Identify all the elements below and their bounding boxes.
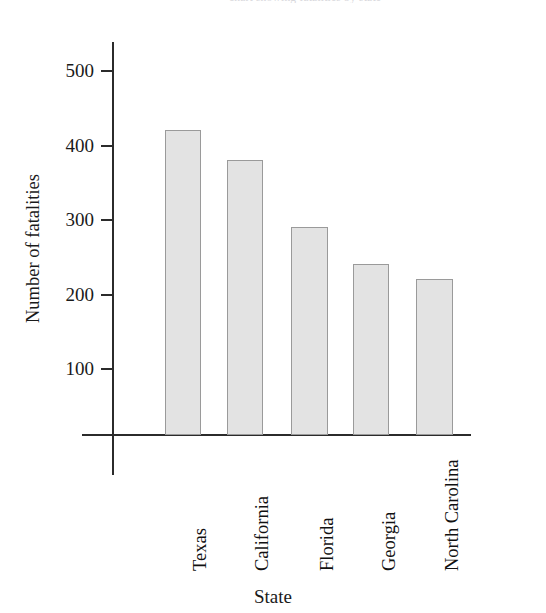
x-tick-label-florida: Florida xyxy=(317,518,338,571)
y-tick-500: 500 xyxy=(101,70,113,72)
x-tick-label-north-carolina: North Carolina xyxy=(442,460,463,572)
x-tick-label-texas: Texas xyxy=(190,528,211,571)
y-axis-line xyxy=(112,42,114,475)
x-axis-title: State xyxy=(0,586,546,608)
bar-georgia xyxy=(353,264,389,435)
y-tick-200: 200 xyxy=(101,294,113,296)
y-tick-label-200: 200 xyxy=(66,283,95,305)
y-tick-300: 300 xyxy=(101,219,113,221)
bar-chart-figure: chart showing fatalities by state 100 20… xyxy=(0,0,546,613)
y-tick-100: 100 xyxy=(101,368,113,370)
y-tick-label-500: 500 xyxy=(66,59,95,81)
y-axis-title: Number of fatalities xyxy=(23,154,44,344)
bar-florida xyxy=(291,227,328,435)
clipped-caption-text: chart showing fatalities by state xyxy=(70,0,540,3)
y-tick-label-100: 100 xyxy=(66,357,95,379)
x-tick-label-georgia: Georgia xyxy=(379,512,400,571)
x-tick-label-california: California xyxy=(252,496,273,571)
x-axis-line xyxy=(82,434,471,436)
y-tick-label-400: 400 xyxy=(66,134,95,156)
bar-texas xyxy=(165,130,201,435)
bar-california xyxy=(227,160,263,435)
bar-north-carolina xyxy=(416,279,453,435)
y-tick-400: 400 xyxy=(101,145,113,147)
y-tick-label-300: 300 xyxy=(66,208,95,230)
